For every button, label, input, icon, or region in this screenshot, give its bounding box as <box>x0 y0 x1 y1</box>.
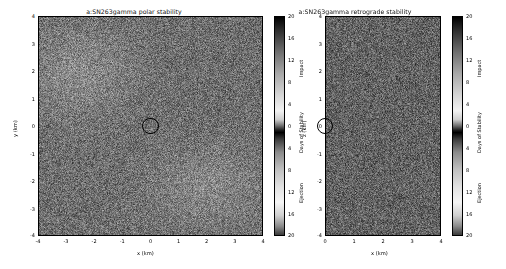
retro-ytick-3: 3 <box>309 42 322 47</box>
polar-cbar-tick-8t: 8 <box>288 80 291 85</box>
retro-cbar-tick-20t: 20 <box>466 14 472 19</box>
polar-cbar-tick-16t: 16 <box>288 36 294 41</box>
polar-xtick-4: 4 <box>256 239 270 244</box>
polar-ytick-m2: -2 <box>22 179 35 184</box>
retro-cbar-ejection-label: Ejection <box>476 183 482 203</box>
retro-cbar-tick-8t: 8 <box>466 80 469 85</box>
retro-xlabel: x (km) <box>371 250 388 256</box>
polar-xtick-3: 3 <box>228 239 242 244</box>
retro-colorbar <box>452 16 463 236</box>
polar-ytick-2: 2 <box>22 69 35 74</box>
retro-cbar-tick-8b: 8 <box>466 168 469 173</box>
retro-cbar-tick-4t: 4 <box>466 102 469 107</box>
polar-cbar-tick-16b: 16 <box>288 212 294 217</box>
polar-body-outline-circle <box>142 118 158 134</box>
polar-xtick-2: 2 <box>200 239 214 244</box>
retro-ytick-m1: -1 <box>309 152 322 157</box>
retro-cbar-tick-0: 0 <box>466 124 469 129</box>
panel-polar: a:SN263gamma polar stability 4 3 2 1 0 -… <box>0 0 280 269</box>
polar-cbar-tick-12b: 12 <box>288 190 294 195</box>
retro-xtick-0: 0 <box>318 239 332 244</box>
polar-ytick-1: 1 <box>22 97 35 102</box>
retro-ytick-0: 0 <box>309 124 322 129</box>
retro-cbar-days-label: Days of Stability <box>476 112 482 153</box>
polar-colorbar <box>274 16 285 236</box>
polar-cbar-tick-12t: 12 <box>288 58 294 63</box>
retro-cbar-tick-12t: 12 <box>466 58 472 63</box>
retro-ytick-m4: -4 <box>309 233 322 238</box>
polar-ytick-m4: -4 <box>22 233 35 238</box>
polar-ytick-m3: -3 <box>22 207 35 212</box>
retro-xtick-3: 3 <box>405 239 419 244</box>
polar-cbar-tick-4t: 4 <box>288 102 291 107</box>
retro-ytick-m3: -3 <box>309 207 322 212</box>
panel-retrograde-axes <box>325 16 441 236</box>
polar-xtick-m3: -3 <box>59 239 73 244</box>
polar-ytick-m1: -1 <box>22 152 35 157</box>
retro-ytick-4: 4 <box>309 14 322 19</box>
panel-polar-title: a:SN263gamma polar stability <box>0 8 274 16</box>
retro-ylabel: z (km) <box>301 121 307 137</box>
retro-ytick-2: 2 <box>309 69 322 74</box>
panel-retrograde: a:SN263gamma retrograde stability 4 3 2 … <box>296 0 506 269</box>
figure-canvas: a:SN263gamma polar stability 4 3 2 1 0 -… <box>0 0 506 269</box>
polar-cbar-tick-0: 0 <box>288 124 291 129</box>
panel-retrograde-title: a:SN263gamma retrograde stability <box>250 8 460 16</box>
polar-xtick-1: 1 <box>172 239 186 244</box>
polar-xtick-0: 0 <box>144 239 158 244</box>
retro-cbar-tick-4b: 4 <box>466 146 469 151</box>
retro-xtick-2: 2 <box>376 239 390 244</box>
polar-ytick-0: 0 <box>22 124 35 129</box>
polar-xtick-m2: -2 <box>87 239 101 244</box>
retro-ytick-m2: -2 <box>309 179 322 184</box>
polar-cbar-tick-4b: 4 <box>288 146 291 151</box>
polar-ytick-3: 3 <box>22 42 35 47</box>
polar-xlabel: x (km) <box>137 250 154 256</box>
retro-xtick-1: 1 <box>347 239 361 244</box>
polar-cbar-tick-20b: 20 <box>288 233 294 238</box>
retro-cbar-tick-16b: 16 <box>466 212 472 217</box>
retro-cbar-tick-12b: 12 <box>466 190 472 195</box>
polar-cbar-tick-8b: 8 <box>288 168 291 173</box>
polar-xtick-m4: -4 <box>31 239 45 244</box>
retro-cbar-impact-label: Impact <box>476 60 482 77</box>
retrograde-stability-heatmap <box>326 17 440 235</box>
retro-ytick-1: 1 <box>309 97 322 102</box>
polar-xtick-m1: -1 <box>115 239 129 244</box>
retro-cbar-tick-20b: 20 <box>466 233 472 238</box>
polar-ylabel: y (km) <box>12 120 18 137</box>
retro-cbar-tick-16t: 16 <box>466 36 472 41</box>
retro-xtick-4: 4 <box>434 239 448 244</box>
polar-ytick-4: 4 <box>22 14 35 19</box>
